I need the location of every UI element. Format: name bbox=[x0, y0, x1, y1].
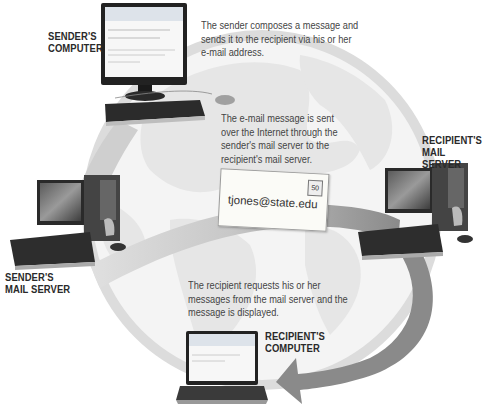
node-label-recipients-computer: RECIPIENT'S COMPUTER bbox=[265, 330, 325, 354]
envelope-icon: 50 tjones@state.edu bbox=[218, 168, 330, 232]
desc-line: The recipient requests his or her bbox=[188, 279, 348, 293]
desc-line: The e-mail message is sent bbox=[221, 112, 338, 126]
label-line: SENDER'S bbox=[48, 30, 103, 42]
desc-line: e-mail address. bbox=[201, 46, 358, 60]
desc-line: messages from the mail server and the bbox=[188, 293, 348, 307]
step-description-3: The recipient requests his or her messag… bbox=[188, 279, 348, 320]
email-flow-diagram: SENDER'S COMPUTER SENDER'S MAIL SERVER R… bbox=[0, 0, 487, 412]
label-line: MAIL SERVER bbox=[422, 146, 482, 170]
desc-line: over the Internet through the bbox=[221, 126, 338, 140]
desc-line: sends it to the recipient via his or her bbox=[201, 33, 358, 47]
desc-line: sender's mail server to the bbox=[221, 139, 338, 153]
label-line: SENDER'S bbox=[5, 271, 70, 283]
stamp-icon: 50 bbox=[307, 180, 323, 197]
node-label-recipients-mail-server: RECIPIENT'S MAIL SERVER bbox=[422, 134, 482, 170]
label-line: RECIPIENT'S bbox=[265, 330, 325, 342]
laptop-icon bbox=[176, 331, 268, 404]
node-label-senders-computer: SENDER'S COMPUTER bbox=[48, 30, 103, 54]
label-line: COMPUTER bbox=[265, 342, 325, 354]
desc-line: message is displayed. bbox=[188, 306, 348, 320]
label-line: RECIPIENT'S bbox=[422, 134, 482, 146]
desc-line: recipient's mail server. bbox=[221, 153, 338, 167]
step-description-2: The e-mail message is sent over the Inte… bbox=[221, 112, 338, 166]
step-description-1: The sender composes a message and sends … bbox=[201, 19, 358, 60]
node-label-senders-mail-server: SENDER'S MAIL SERVER bbox=[5, 271, 70, 295]
label-line: COMPUTER bbox=[48, 42, 103, 54]
desc-line: The sender composes a message and bbox=[201, 19, 358, 33]
email-address: tjones@state.edu bbox=[228, 194, 318, 211]
label-line: MAIL SERVER bbox=[5, 283, 70, 295]
